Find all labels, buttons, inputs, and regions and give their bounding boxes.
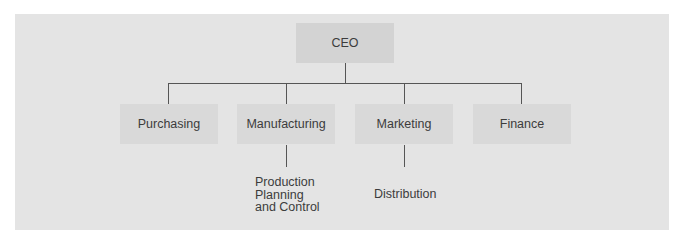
node-distribution-label: Distribution	[374, 187, 437, 201]
connector-marketing	[404, 83, 405, 104]
node-ceo: CEO	[296, 23, 394, 63]
node-distribution: Distribution	[374, 188, 437, 201]
node-finance: Finance	[473, 104, 571, 144]
node-marketing: Marketing	[355, 104, 453, 144]
node-marketing-label: Marketing	[377, 117, 432, 131]
connector-manufacturing-sub	[286, 145, 287, 167]
node-finance-label: Finance	[500, 117, 544, 131]
connector-ceo-down	[345, 63, 346, 84]
node-purchasing: Purchasing	[120, 104, 218, 144]
connector-finance	[521, 83, 522, 104]
node-purchasing-label: Purchasing	[138, 117, 201, 131]
connector-marketing-sub	[404, 145, 405, 167]
node-ceo-label: CEO	[331, 36, 358, 50]
sub-line-1: Production	[255, 176, 320, 189]
node-manufacturing: Manufacturing	[237, 104, 335, 144]
connector-manufacturing	[286, 83, 287, 104]
node-production-planning: Production Planning and Control	[255, 176, 320, 214]
node-manufacturing-label: Manufacturing	[246, 117, 325, 131]
connector-purchasing	[168, 83, 169, 104]
connector-horizontal	[168, 83, 522, 84]
sub-line-3: and Control	[255, 201, 320, 214]
